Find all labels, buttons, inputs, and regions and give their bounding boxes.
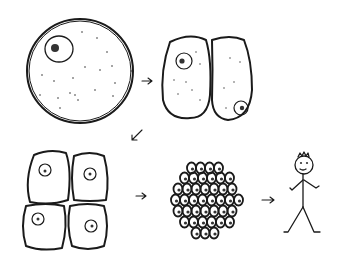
development-diagram <box>0 0 346 268</box>
morula-cluster <box>171 163 243 239</box>
arrow-right-icon <box>142 78 152 84</box>
zygote-cell <box>27 19 133 123</box>
nucleus-icon <box>45 36 73 62</box>
two-cell-stage <box>162 36 252 120</box>
arrow-down-left-icon <box>132 130 142 140</box>
arrow-right-icon <box>262 197 274 203</box>
four-cell-stage <box>23 151 108 250</box>
arrow-right-icon <box>136 193 146 199</box>
human-figure <box>284 152 320 232</box>
